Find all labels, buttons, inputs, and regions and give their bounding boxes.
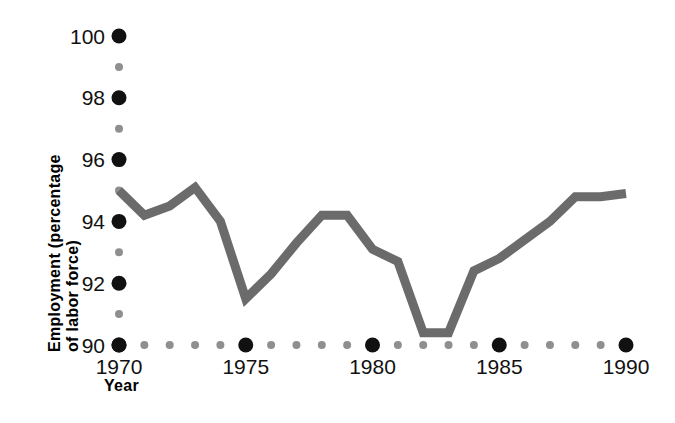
x-tick-minor-1989 [597,341,605,349]
y-tick-major-100 [112,29,127,44]
x-axis-title: Year [104,377,139,394]
y-tick-label-90: 90 [82,334,105,357]
x-tick-label-1975: 1975 [222,355,269,378]
x-tick-minor-1988 [571,341,579,349]
x-tick-minor-1977 [292,341,300,349]
x-axis-tick-labels: 19701975198019851990 [96,355,650,378]
y-tick-major-92 [112,276,127,291]
x-tick-minor-1983 [445,341,453,349]
x-tick-minor-1979 [343,341,351,349]
x-tick-minor-1982 [419,341,427,349]
x-axis-major-ticks [112,338,634,353]
y-tick-label-94: 94 [82,210,106,233]
y-axis-title-line2: of labor force) [64,240,81,352]
x-tick-minor-1981 [394,341,402,349]
x-tick-minor-1974 [216,341,224,349]
employment-line-chart: Employment (percentage of labor force) Y… [0,0,675,423]
y-tick-label-98: 98 [82,86,105,109]
y-tick-major-98 [112,90,127,105]
y-tick-label-92: 92 [82,272,105,295]
data-series-line [119,187,626,332]
y-tick-minor-91 [115,310,123,318]
y-axis-title-line1: Employment (percentage [46,154,63,352]
x-tick-minor-1976 [267,341,275,349]
x-tick-minor-1986 [521,341,529,349]
x-tick-minor-1972 [166,341,174,349]
y-tick-major-96 [112,152,127,167]
y-tick-minor-93 [115,248,123,256]
x-tick-minor-1984 [470,341,478,349]
x-tick-minor-1987 [546,341,554,349]
x-tick-label-1985: 1985 [476,355,523,378]
x-tick-major-1975 [238,338,253,353]
x-tick-major-1985 [492,338,507,353]
y-axis-title: Employment (percentage of labor force) [46,154,81,352]
y-tick-label-96: 96 [82,148,105,171]
x-tick-minor-1971 [140,341,148,349]
chart-canvas: Employment (percentage of labor force) Y… [0,0,675,423]
y-tick-label-100: 100 [70,25,105,48]
x-tick-label-1970: 1970 [96,355,143,378]
y-tick-major-94 [112,214,127,229]
x-tick-major-1990 [619,338,634,353]
x-tick-minor-1973 [191,341,199,349]
x-tick-label-1980: 1980 [349,355,396,378]
x-tick-minor-1978 [318,341,326,349]
x-tick-major-1970 [112,338,127,353]
x-tick-major-1980 [365,338,380,353]
y-tick-minor-99 [115,63,123,71]
y-tick-minor-97 [115,125,123,133]
x-tick-label-1990: 1990 [603,355,650,378]
